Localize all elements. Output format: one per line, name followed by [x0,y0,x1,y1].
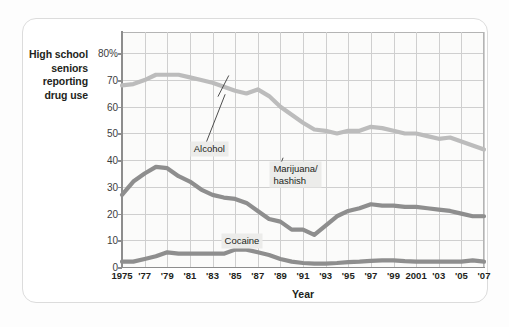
y-tick-label: 20 [84,208,118,219]
x-tick-labels: 1975'77'79'81'83'85'87'89'91'93'95'97'99… [122,270,484,286]
annotation-label-alcohol: Alcohol [191,142,228,156]
y-tick-label: 50 [84,128,118,139]
x-tick-label: '77 [138,270,151,281]
x-tick-label: 2001 [406,270,427,281]
leader-line-alcohol [203,94,225,149]
annotation-leaders [122,32,484,267]
y-tick-label: 30 [84,181,118,192]
y-tick-label: 10 [84,235,118,246]
annotation-label-cocaine: Cocaine [222,234,263,248]
y-axis-caption: High school seniors reporting drug use [20,48,88,102]
x-tick-label: '85 [229,270,242,281]
leader-line-cocaine [218,75,229,96]
chart-screenshot: High school seniors reporting drug use 0… [0,0,509,327]
x-tick-label: '07 [478,270,491,281]
y-tick-label: 80% [84,48,118,59]
plot-area: AlcoholMarijuana/ hashishCocaine [122,32,484,267]
annotation-label-marijuana: Marijuana/ hashish [270,162,320,187]
x-tick-label: '79 [161,270,174,281]
x-tick-label: '89 [274,270,287,281]
x-axis-title: Year [122,288,484,300]
x-tick-label: '03 [432,270,445,281]
y-tick-labels: 01020304050607080% [84,32,118,267]
x-tick-label: '83 [206,270,219,281]
x-tick-label: '87 [251,270,264,281]
x-tick-label: '81 [183,270,196,281]
x-tick-label: '97 [364,270,377,281]
x-tick-label: 1975 [111,270,132,281]
x-tick-label: '99 [387,270,400,281]
x-tick-label: '91 [297,270,310,281]
x-tick-label: '05 [455,270,468,281]
y-tick-label: 70 [84,75,118,86]
x-tick-label: '95 [342,270,355,281]
y-tick-label: 40 [84,155,118,166]
y-tick-label: 60 [84,101,118,112]
x-tick-label: '93 [319,270,332,281]
